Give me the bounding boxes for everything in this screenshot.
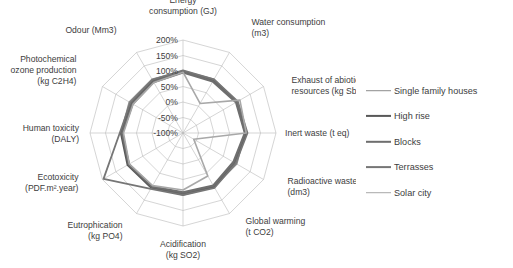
legend-item-label: Blocks — [391, 137, 421, 147]
legend-item[interactable]: Single family houses — [366, 78, 513, 104]
axis-category-label: (t CO2) — [246, 227, 274, 237]
axis-category-label: resources (kg Sb) — [292, 86, 357, 96]
legend-item[interactable]: Solar city — [366, 180, 513, 206]
axis-category-label: (DALY) — [51, 134, 79, 144]
axis-category-label: Global warming — [246, 216, 306, 226]
axis-category-label: Eutrophication — [68, 220, 123, 230]
axis-category-label: Human toxicity — [23, 123, 80, 133]
axis-category-label: Photochemical — [20, 54, 76, 64]
axis-spoke — [102, 133, 183, 180]
radial-tick-label: -100% — [153, 128, 178, 138]
legend-item-label: Single family houses — [391, 86, 477, 96]
radial-tick-label: 200% — [156, 35, 178, 45]
legend-item-label: Terrasses — [391, 162, 433, 172]
radial-tick-label: -50% — [158, 113, 178, 123]
axis-spoke — [183, 52, 230, 133]
axis-category-label: consumption (GJ) — [149, 6, 217, 16]
axis-category-label: (PDF.m².year) — [25, 183, 79, 193]
legend-item-label: Solar city — [391, 188, 431, 198]
axis-category-label: Exhaust of abiotic — [292, 75, 357, 85]
axis-category-label: Water consumption — [252, 17, 326, 27]
radial-tick-label: 150% — [156, 51, 178, 61]
chart-plot-area: 200%150%100%50%0%-50%-100% Energyconsump… — [0, 0, 356, 268]
axis-category-label: Ecotoxicity — [37, 172, 79, 182]
axis-category-label: Radioactive waste — [288, 176, 357, 186]
axis-category-label: ozone production — [11, 65, 77, 75]
radar-chart-svg: 200%150%100%50%0%-50%-100% Energyconsump… — [0, 0, 356, 268]
axis-category-label: Odour (Mm3) — [65, 25, 116, 35]
axis-category-label: (m3) — [252, 28, 270, 38]
radial-tick-label: 50% — [161, 82, 179, 92]
legend-line-swatch — [366, 137, 391, 147]
radial-tick-label: 100% — [156, 66, 178, 76]
legend-item-label: High rise — [391, 111, 430, 121]
legend-item[interactable]: Terrasses — [366, 155, 513, 181]
axis-category-label: Inert waste (t eq) — [285, 128, 350, 138]
legend-item[interactable]: Blocks — [366, 129, 513, 155]
axis-spoke — [137, 133, 184, 214]
legend-line-swatch — [366, 111, 391, 121]
radial-tick-label: 0% — [166, 97, 179, 107]
legend-line-swatch — [366, 188, 391, 198]
axis-category-label: Acidification — [160, 239, 206, 249]
axis-category-label: (kg SO2) — [166, 250, 201, 260]
axis-category-label: Energy — [169, 0, 197, 5]
axis-category-label: (dm3) — [288, 187, 311, 197]
chart-legend: Single family houses High rise Blocks Te… — [366, 78, 513, 206]
legend-item[interactable]: High rise — [366, 104, 513, 130]
axis-category-label: (kg C2H4) — [37, 76, 76, 86]
radar-chart-figure: 200%150%100%50%0%-50%-100% Energyconsump… — [0, 0, 513, 268]
legend-line-swatch — [366, 86, 391, 96]
axis-category-label: (kg PO4) — [88, 231, 123, 241]
legend-line-swatch — [366, 162, 391, 172]
